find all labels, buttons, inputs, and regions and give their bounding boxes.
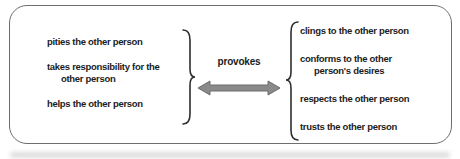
list-item-text: person's desires xyxy=(300,65,409,77)
list-item: takes responsibility for the other perso… xyxy=(47,61,160,85)
list-item: pities the other person xyxy=(47,36,160,48)
double-arrow-icon xyxy=(197,79,281,97)
list-item-text: trusts the other person xyxy=(300,121,409,133)
list-item-text: clings to the other person xyxy=(300,25,409,37)
diagram-frame: pities the other person takes responsibi… xyxy=(9,5,452,144)
left-list: pities the other person takes responsibi… xyxy=(47,36,160,110)
list-item-text: helps the other person xyxy=(47,98,160,110)
list-item: helps the other person xyxy=(47,98,160,110)
list-item-text: other person xyxy=(47,73,160,85)
diagram-canvas: pities the other person takes responsibi… xyxy=(0,0,460,159)
list-item-text: pities the other person xyxy=(47,36,160,48)
list-item: clings to the other person xyxy=(300,25,409,37)
list-item-text: takes responsibility for the xyxy=(47,61,160,73)
arrow-label: provokes xyxy=(197,56,281,67)
list-item: respects the other person xyxy=(300,93,409,105)
page-shadow xyxy=(10,152,450,158)
list-item: conforms to the other person's desires xyxy=(300,53,409,77)
right-list: clings to the other person conforms to t… xyxy=(300,25,409,133)
list-item-text: conforms to the other xyxy=(300,53,409,65)
left-curly-brace-icon xyxy=(179,27,197,127)
list-item-text: respects the other person xyxy=(300,93,409,105)
list-item: trusts the other person xyxy=(300,121,409,133)
